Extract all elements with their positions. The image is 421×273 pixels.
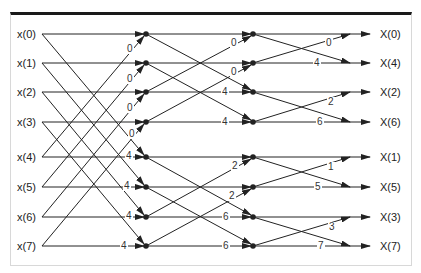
twiddle-label: 0 <box>325 38 333 48</box>
twiddle-label: 0 <box>126 74 134 84</box>
twiddle-label: 4 <box>313 58 321 68</box>
twiddle-label: 4 <box>125 211 133 221</box>
twiddle-label: 4 <box>123 181 131 191</box>
twiddle-label: 7 <box>317 241 325 251</box>
output-label: X(3) <box>380 211 401 223</box>
twiddle-label: 4 <box>120 241 128 251</box>
output-label: X(5) <box>380 181 401 193</box>
input-label: x(7) <box>17 240 36 252</box>
input-label: x(6) <box>17 211 36 223</box>
twiddle-label: 0 <box>126 103 134 113</box>
output-label: X(4) <box>380 57 401 69</box>
input-label: x(3) <box>17 116 36 128</box>
input-label: x(1) <box>17 57 36 69</box>
twiddle-label: 6 <box>316 117 324 127</box>
twiddle-label: 4 <box>125 151 133 161</box>
twiddle-label: 2 <box>228 191 236 201</box>
twiddle-label: 4 <box>221 117 229 127</box>
twiddle-label: 3 <box>328 222 336 232</box>
input-label: x(0) <box>17 28 36 40</box>
output-label: X(1) <box>380 151 401 163</box>
output-label: X(2) <box>380 86 401 98</box>
butterfly-network <box>0 0 421 273</box>
input-label: x(4) <box>17 151 36 163</box>
input-label: x(5) <box>17 181 36 193</box>
twiddle-label: 5 <box>314 182 322 192</box>
twiddle-label: 0 <box>230 67 238 77</box>
twiddle-label: 0 <box>126 44 134 54</box>
twiddle-label: 2 <box>327 97 335 107</box>
input-label: x(2) <box>17 86 36 98</box>
twiddle-label: 0 <box>230 38 238 48</box>
output-label: X(0) <box>380 28 401 40</box>
twiddle-label: 2 <box>231 161 239 171</box>
twiddle-label: 4 <box>221 87 229 97</box>
twiddle-label: 0 <box>128 129 136 139</box>
output-label: X(6) <box>380 116 401 128</box>
twiddle-label: 1 <box>327 162 335 172</box>
output-label: X(7) <box>380 240 401 252</box>
twiddle-label: 6 <box>222 241 230 251</box>
twiddle-label: 6 <box>222 212 230 222</box>
